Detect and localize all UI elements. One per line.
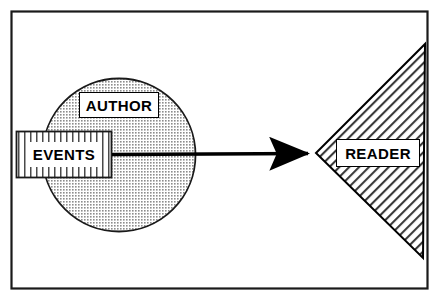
events-label: EVENTS <box>27 142 101 167</box>
events-to-reader-arrow <box>112 154 308 155</box>
reader-label: READER <box>336 139 420 167</box>
diagram-canvas: AUTHOR EVENTS READER <box>0 0 436 300</box>
author-label: AUTHOR <box>79 92 159 118</box>
